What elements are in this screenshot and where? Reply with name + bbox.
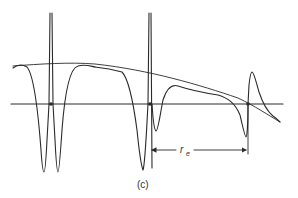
center-to-right-wave	[152, 86, 248, 137]
panel-label: (c)	[137, 179, 149, 190]
diagram-figure: r e (c)	[0, 0, 298, 198]
left-dip-2	[53, 65, 95, 172]
center-crossing-dot	[148, 102, 152, 106]
dimension-label: r	[180, 144, 184, 155]
left-spike	[49, 13, 53, 104]
left-crossing-dot	[49, 102, 53, 106]
right-crossing-dot	[246, 102, 250, 106]
dimension-subscript: e	[186, 150, 190, 157]
right-peak	[248, 72, 280, 122]
diagram-canvas: r e (c)	[0, 0, 298, 198]
left-dip-1	[13, 65, 49, 172]
center-dip-left	[95, 67, 148, 170]
center-spike	[148, 13, 152, 168]
